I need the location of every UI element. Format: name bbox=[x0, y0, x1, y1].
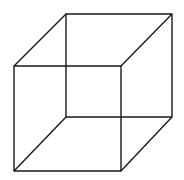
edge-top-right bbox=[121, 14, 172, 66]
necker-cube-diagram bbox=[0, 0, 184, 180]
edge-bottom-right bbox=[121, 117, 172, 171]
edge-bottom-left bbox=[14, 117, 66, 171]
edge-top-left bbox=[14, 14, 66, 66]
